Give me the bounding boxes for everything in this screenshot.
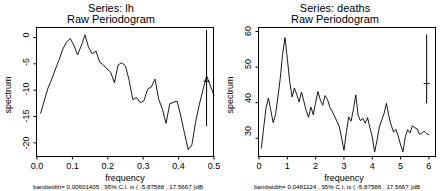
spectrum-series-lh [41,35,214,150]
y-ticklabel: -5 [21,58,31,66]
x-axis-ticklabels-lh: 0.0 0.1 0.2 0.3 0.4 0.5 [31,161,221,171]
x-axis-ticklabels-deaths: 0 1 2 3 4 5 6 [256,161,431,171]
x-ticklabel: 0.2 [102,161,115,171]
x-axis-title-deaths: frequency [324,173,364,183]
x-ticklabel: 0 [256,161,261,171]
x-ticklabel: 5 [398,161,403,171]
spectrum-series-deaths [261,38,429,152]
plot-caption-deaths: bandwidth= 0.0481124 , 95% C.I. is ( -5.… [254,183,420,190]
plot-caption-lh: bandwidth= 0.00601405 , 95% C.I. is ( -5… [33,183,203,190]
y-ticklabel: -10 [21,82,31,95]
y-axis-title-lh: spectrum [3,76,13,113]
y-ticklabel: 30 [243,126,253,136]
x-ticklabel: 2 [313,161,318,171]
x-ticklabel: 0.1 [66,161,79,171]
y-axis-title-deaths: spectrum [225,76,235,113]
y-axis-ticklabels-lh: 0 -5 -10 -15 -20 [21,32,31,149]
x-ticklabel: 0.3 [137,161,150,171]
confidence-interval-bar-lh [204,30,210,126]
plot-subtitle-deaths: Raw Periodogram [291,13,379,25]
x-ticklabel: 0.0 [31,161,44,171]
y-axis-ticklabels-deaths: 60 50 40 30 [243,26,253,136]
y-ticklabel: 40 [243,93,253,103]
plot-canvas-lh: Series: lh Raw Periodogram spectrum 0 -5… [0,0,223,191]
x-ticklabel: 0.4 [172,161,185,171]
plot-frame-lh [37,28,214,157]
x-ticklabel: 1 [285,161,290,171]
plot-subtitle-lh: Raw Periodogram [67,13,155,25]
periodogram-figure: Series: lh Raw Periodogram spectrum 0 -5… [0,0,447,191]
y-ticklabel: 50 [243,59,253,69]
x-axis-title-lh: frequency [105,173,145,183]
confidence-interval-bar-deaths [424,34,430,103]
y-ticklabel: 60 [243,26,253,36]
y-ticklabel: -20 [21,136,31,149]
x-ticklabel: 6 [426,161,431,171]
x-ticklabel: 3 [341,161,346,171]
y-ticklabel: 0 [21,32,31,37]
plot-frame-deaths [259,28,436,157]
plot-panel-lh: Series: lh Raw Periodogram spectrum 0 -5… [0,0,223,191]
y-ticklabel: -15 [21,109,31,122]
plot-canvas-deaths: Series: deaths Raw Periodogram spectrum … [224,0,447,191]
plot-panel-deaths: Series: deaths Raw Periodogram spectrum … [224,0,447,191]
x-ticklabel: 4 [370,161,375,171]
x-ticklabel: 0.5 [208,161,221,171]
